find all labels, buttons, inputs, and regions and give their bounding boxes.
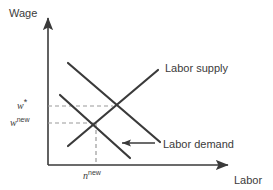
labor-demand-curve-new: [60, 95, 130, 158]
wage-new-superscript: new: [17, 116, 30, 123]
wage-new-base: w: [10, 117, 17, 128]
wage-new-tick-label: wnew: [10, 118, 30, 128]
labor-new-tick-label: nnew: [83, 171, 101, 181]
wage-original-tick-label: w*: [17, 101, 27, 111]
labor-new-superscript: new: [88, 169, 101, 176]
labor-supply-label: Labor supply: [165, 63, 228, 74]
x-axis-label: Labor: [234, 175, 262, 186]
supply-demand-diagram: Wage Labor Labor supply Labor demand w* …: [0, 0, 273, 190]
labor-demand-label: Labor demand: [163, 139, 234, 150]
labor-demand-curve-original: [68, 63, 160, 142]
y-axis-label: Wage: [9, 8, 37, 19]
diagram-canvas: [0, 0, 273, 190]
wage-original-base: w: [17, 100, 24, 111]
labor-supply-curve: [68, 70, 158, 146]
wage-original-superscript: *: [24, 97, 28, 107]
